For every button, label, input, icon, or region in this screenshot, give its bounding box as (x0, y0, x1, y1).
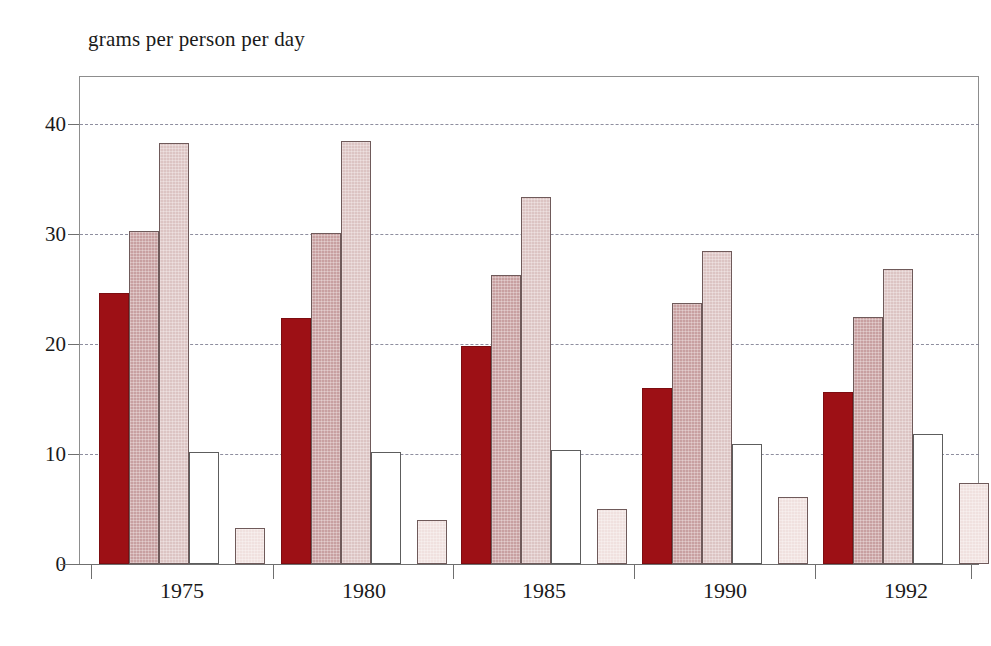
bar-texture (462, 347, 490, 563)
bar-texture (824, 393, 852, 563)
bar-series-3-1990 (702, 251, 732, 565)
bar-texture (854, 318, 882, 564)
bar-texture (130, 232, 158, 563)
x-tick-mark (971, 564, 972, 579)
bar-series-2-1990 (672, 303, 702, 564)
bar-series-4-1975 (189, 452, 219, 564)
bar-texture (960, 484, 988, 563)
bar-series-2-1985 (491, 275, 521, 564)
bar-series-1-1992 (823, 392, 853, 564)
chart-figure: grams per person per day 010203040 19751… (0, 0, 991, 646)
bar-texture (312, 234, 340, 563)
bar-texture (492, 276, 520, 563)
x-tick-mark (453, 564, 454, 579)
y-axis-line (79, 76, 80, 565)
x-tick-mark (634, 564, 635, 579)
bar-texture (779, 498, 807, 563)
bar-texture (372, 453, 400, 563)
bar-series-3-1975 (159, 143, 189, 564)
bar-texture (914, 435, 942, 563)
x-tick-label-1985: 1985 (522, 578, 566, 604)
y-tick-mark (68, 454, 79, 455)
x-tick-mark (91, 564, 92, 579)
bar-series-1-1980 (281, 318, 311, 564)
bar-series-5-1985 (597, 509, 627, 564)
x-tick-label-1975: 1975 (160, 578, 204, 604)
bar-series-5-1992 (959, 483, 989, 564)
x-tick-label-1980: 1980 (342, 578, 386, 604)
gridline (80, 124, 979, 125)
bar-texture (884, 270, 912, 563)
bar-series-4-1980 (371, 452, 401, 564)
bar-texture (673, 304, 701, 563)
x-tick-mark (815, 564, 816, 579)
x-tick-mark (273, 564, 274, 579)
bar-series-1-1975 (99, 293, 129, 564)
bar-texture (643, 389, 671, 563)
bar-texture (733, 445, 761, 563)
bar-texture (282, 319, 310, 563)
bar-series-3-1985 (521, 197, 551, 564)
bar-texture (522, 198, 550, 563)
bar-series-2-1980 (311, 233, 341, 564)
bar-series-5-1975 (235, 528, 265, 564)
y-tick-mark (68, 234, 79, 235)
bar-texture (190, 453, 218, 563)
bar-series-2-1992 (853, 317, 883, 565)
y-tick-label: 20 (12, 332, 66, 357)
bar-series-1-1990 (642, 388, 672, 564)
x-tick-label-1990: 1990 (703, 578, 747, 604)
bar-series-3-1980 (341, 141, 371, 565)
y-tick-mark (68, 124, 79, 125)
bar-texture (418, 521, 446, 563)
axis-title: grams per person per day (88, 27, 305, 52)
y-tick-label: 40 (12, 112, 66, 137)
bar-texture (100, 294, 128, 563)
bar-texture (160, 144, 188, 563)
y-tick-mark (68, 344, 79, 345)
bar-series-4-1985 (551, 450, 581, 564)
bar-series-2-1975 (129, 231, 159, 564)
y-tick-label: 0 (12, 552, 66, 577)
y-tick-label: 10 (12, 442, 66, 467)
bar-series-4-1990 (732, 444, 762, 564)
bar-texture (703, 252, 731, 564)
bar-series-5-1990 (778, 497, 808, 564)
bar-texture (552, 451, 580, 563)
y-tick-label: 30 (12, 222, 66, 247)
bar-texture (342, 142, 370, 564)
bar-texture (598, 510, 626, 563)
bar-series-3-1992 (883, 269, 913, 564)
bar-series-4-1992 (913, 434, 943, 564)
bar-texture (236, 529, 264, 563)
x-tick-label-1992: 1992 (884, 578, 928, 604)
bar-series-5-1980 (417, 520, 447, 564)
x-axis-line (60, 564, 979, 565)
bar-series-1-1985 (461, 346, 491, 564)
